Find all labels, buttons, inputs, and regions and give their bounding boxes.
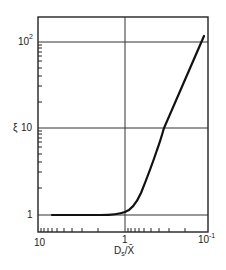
x-tick-label-01-exp: -1 (209, 232, 215, 239)
y-tick-label-10: 10 (21, 122, 33, 133)
x-tick-label-10: 10 (34, 237, 46, 248)
y-tick-label-1: 1 (27, 209, 33, 220)
plot-frame (38, 17, 208, 232)
x-tick-label-01: 10 (198, 234, 210, 245)
x-axis-label: Ds/X̄ (114, 244, 135, 257)
y-axis-symbol: ξ (13, 122, 18, 134)
chart: 10 2 ξ 10 1 10 1 10 -1 Ds/X̄ (0, 0, 226, 270)
y-tick-label-100-exp: 2 (29, 33, 33, 40)
y-tick-label-100: 10 (18, 36, 30, 47)
data-curve (52, 36, 204, 215)
x-tick-label-1: 1 (122, 234, 128, 245)
